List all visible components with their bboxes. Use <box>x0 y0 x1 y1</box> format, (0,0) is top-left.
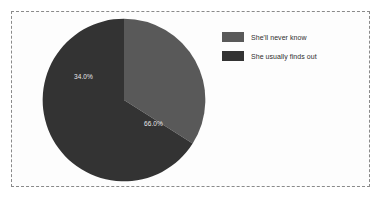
legend-label-she-usually-finds-out: She usually finds out <box>251 53 317 60</box>
legend-item-shell-never-know[interactable]: She'll never know <box>222 30 354 44</box>
pie-slice-label-shell-never-know: 34.0% <box>74 73 93 80</box>
legend-swatch-icon-shell-never-know <box>222 32 244 42</box>
pie-chart-plot-area: 34.0% 66.0% She'll never know She usuall… <box>12 12 371 188</box>
legend-swatch-icon-she-usually-finds-out <box>222 51 244 61</box>
legend-item-she-usually-finds-out[interactable]: She usually finds out <box>222 49 354 63</box>
legend-label-shell-never-know: She'll never know <box>251 34 307 41</box>
chart-legend: She'll never know She usually finds out <box>222 30 354 68</box>
pie-chart-graphic <box>41 17 207 183</box>
chart-figure-frame: 34.0% 66.0% She'll never know She usuall… <box>11 11 370 187</box>
pie-slice-label-she-usually-finds-out: 66.0% <box>144 120 163 127</box>
